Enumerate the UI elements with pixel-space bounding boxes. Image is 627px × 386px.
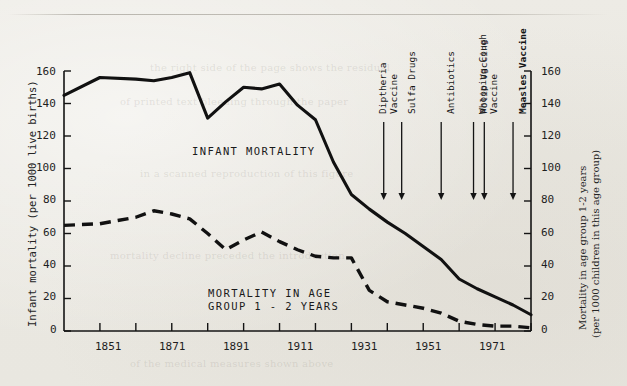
y2tick-160: 160 [541, 65, 561, 78]
annotation-arrow-head [470, 193, 476, 200]
annotation-arrow-head [398, 193, 404, 200]
annotation-arrows [381, 122, 517, 200]
y2tick-0: 0 [541, 323, 548, 336]
annotation-label-0-line-1: Vaccine [388, 74, 399, 114]
inline-label-age-group-line1: MORTALITY IN AGE [208, 287, 332, 300]
y2tick-80: 80 [541, 193, 554, 206]
xtick-1951: 1951 [415, 340, 442, 353]
annotation-label-0-line-0: Diptheria [377, 63, 388, 114]
ytick-60: 60 [43, 226, 56, 239]
ytick-40: 40 [43, 258, 56, 271]
annotation-label-4-line-0: Whooping Cough [477, 34, 488, 114]
ytick-160: 160 [36, 65, 56, 78]
annotation-label-5-line-0: Measles Vaccine [517, 28, 528, 114]
ytick-120: 120 [36, 129, 56, 142]
xtick-1851: 1851 [95, 340, 122, 353]
series-infant-mortality-line [64, 73, 531, 315]
chart-figure [0, 0, 627, 386]
y2tick-40: 40 [541, 258, 554, 271]
xtick-1891: 1891 [223, 340, 250, 353]
ytick-80: 80 [43, 193, 56, 206]
y2tick-60: 60 [541, 226, 554, 239]
ytick-0: 0 [50, 323, 57, 336]
right-axis-title-line1: Mortality in age group 1-2 years [577, 166, 588, 331]
left-axis-title: Infant mortality (per 1000 live births) [26, 80, 38, 327]
inline-label-infant-mortality: INFANT MORTALITY [192, 145, 316, 158]
annotation-arrow-head [481, 193, 487, 200]
xtick-1971: 1971 [479, 340, 506, 353]
chart-svg [0, 0, 627, 386]
xtick-1911: 1911 [287, 340, 314, 353]
annotation-label-2-line-0: Antibiotics [445, 51, 456, 114]
y2tick-140: 140 [541, 97, 561, 110]
xtick-1931: 1931 [351, 340, 378, 353]
annotation-arrow-head [438, 193, 444, 200]
y2tick-100: 100 [541, 161, 561, 174]
ytick-100: 100 [36, 161, 56, 174]
annotation-label-1-line-0: Sulfa Drugs [406, 51, 417, 114]
ytick-140: 140 [36, 97, 56, 110]
y2tick-120: 120 [541, 129, 561, 142]
annotation-label-4-line-1: Vaccine [488, 74, 499, 114]
right-axis-title-line2: (per 1000 children in this age group) [590, 150, 601, 338]
annotation-arrow-head [381, 193, 387, 200]
ytick-20: 20 [43, 290, 56, 303]
y2tick-20: 20 [541, 290, 554, 303]
left-axis-ticks [64, 71, 71, 331]
inline-label-age-group-line2: GROUP 1 - 2 YEARS [208, 300, 339, 313]
xtick-1871: 1871 [159, 340, 186, 353]
annotation-arrow-head [510, 193, 516, 200]
